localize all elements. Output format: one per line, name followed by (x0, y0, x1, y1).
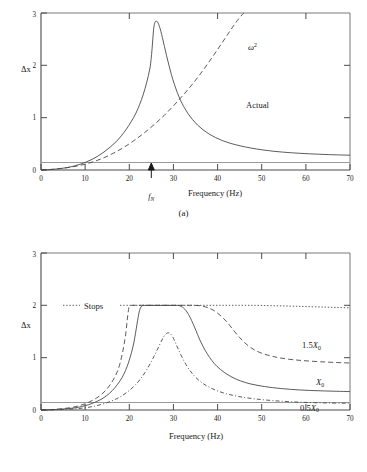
chart-a-xtick-50: 50 (258, 175, 266, 183)
chart-a-svg: 0 1 2 3 Δx 0 (0, 0, 367, 236)
chart-a-xtick-30: 30 (170, 175, 178, 183)
chart-panel-b: 0 1 2 3 Δx (0, 236, 367, 472)
chart-b-y-axis-title: Δx (21, 320, 32, 330)
chart-b-ytick-0: 0 (32, 407, 36, 415)
curve-omega-squared (41, 13, 244, 170)
chart-b-frame (41, 253, 350, 410)
chart-b-xtick-40: 40 (214, 415, 222, 423)
chart-b-y-tick-labels: 0 1 2 3 (32, 251, 36, 415)
chart-panel-a: 0 1 2 3 Δx 0 (0, 0, 367, 236)
curve-x0 (41, 305, 350, 410)
chart-a-ytick-2: 2 (32, 62, 36, 70)
curve-1-5-x0 (41, 305, 350, 410)
chart-b-xtick-70: 70 (346, 415, 354, 423)
chart-b-xtick-10: 10 (82, 415, 90, 423)
natural-frequency-label: fN (148, 192, 154, 202)
chart-a-y-ticks (41, 13, 350, 170)
omega-squared-label: ω2 (248, 42, 257, 52)
chart-b-x-ticks (41, 253, 350, 410)
series-label-x0: X0 (315, 377, 324, 388)
chart-b-xtick-30: 30 (170, 415, 178, 423)
chart-b-xtick-20: 20 (126, 415, 134, 423)
chart-a-xtick-40: 40 (214, 175, 222, 183)
chart-a-xtick-20: 20 (126, 175, 134, 183)
stops-label: Stops (84, 301, 104, 311)
panel-a-caption: (a) (0, 208, 367, 218)
actual-curve-label: Actual (246, 100, 270, 110)
chart-a-ytick-1: 1 (32, 114, 36, 122)
natural-frequency-marker (148, 163, 154, 178)
chart-b-x-axis-title: Frequency (Hz) (169, 431, 223, 441)
chart-a-y-tick-labels: 0 1 2 3 (32, 11, 36, 175)
chart-b-y-ticks (41, 253, 350, 410)
curve-actual (41, 21, 350, 170)
chart-a-ytick-3: 3 (32, 11, 36, 19)
chart-b-ytick-1: 1 (32, 354, 36, 362)
chart-a-xtick-0: 0 (39, 175, 43, 183)
chart-b-xtick-50: 50 (258, 415, 266, 423)
chart-a-y-axis-title: Δx (21, 64, 32, 74)
chart-a-x-axis-title: Frequency (Hz) (188, 188, 242, 198)
chart-a-xtick-70: 70 (346, 175, 354, 183)
chart-b-ytick-2: 2 (32, 302, 36, 310)
figure-frequency-response: 0 1 2 3 Δx 0 (0, 0, 367, 472)
chart-b-svg: 0 1 2 3 Δx (0, 236, 367, 472)
chart-a-x-tick-labels: 0 10 20 30 40 50 60 70 (39, 175, 354, 183)
chart-a-x-ticks (41, 13, 350, 170)
chart-a-xtick-10: 10 (82, 175, 90, 183)
chart-a-ytick-0: 0 (32, 167, 36, 175)
chart-b-xtick-60: 60 (302, 415, 310, 423)
series-label-0-5-x0: 0.5X0 (300, 403, 319, 414)
chart-b-ytick-3: 3 (32, 251, 36, 259)
chart-b-xtick-0: 0 (39, 415, 43, 423)
chart-b-x-tick-labels: 0 10 20 30 40 50 60 70 (39, 415, 354, 423)
chart-a-xtick-60: 60 (302, 175, 310, 183)
chart-a-frame (41, 13, 350, 170)
series-label-1-5-x0: 1.5X0 (302, 340, 321, 351)
